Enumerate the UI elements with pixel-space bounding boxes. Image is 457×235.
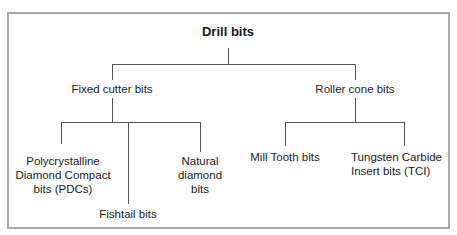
node-tci-line-1: Tungsten Carbide	[351, 150, 451, 164]
node-roller-cone-bits: Roller cone bits	[305, 82, 405, 96]
node-natural-diamond-bits: Natural diamond bits	[165, 154, 235, 196]
node-pdc-line-3: bits (PDCs)	[11, 182, 115, 196]
node-tci-bits: Tungsten Carbide Insert bits (TCI)	[348, 150, 451, 178]
node-pdc-bits: Polycrystalline Diamond Compact bits (PD…	[11, 154, 115, 196]
root-node-drill-bits: Drill bits	[178, 25, 278, 39]
node-mill-tooth-line-1: Mill Tooth bits	[245, 150, 325, 164]
node-natural-line-1: Natural	[165, 154, 235, 168]
node-natural-line-3: bits	[165, 182, 235, 196]
node-fishtail-bits: Fishtail bits	[78, 207, 178, 221]
node-natural-line-2: diamond	[165, 168, 235, 182]
node-fishtail-line-1: Fishtail bits	[78, 207, 178, 221]
node-pdc-line-1: Polycrystalline	[11, 154, 115, 168]
node-tci-line-2: Insert bits (TCI)	[351, 164, 451, 178]
node-fixed-cutter-bits: Fixed cutter bits	[62, 82, 162, 96]
node-mill-tooth-bits: Mill Tooth bits	[245, 150, 325, 164]
node-pdc-line-2: Diamond Compact	[11, 168, 115, 182]
